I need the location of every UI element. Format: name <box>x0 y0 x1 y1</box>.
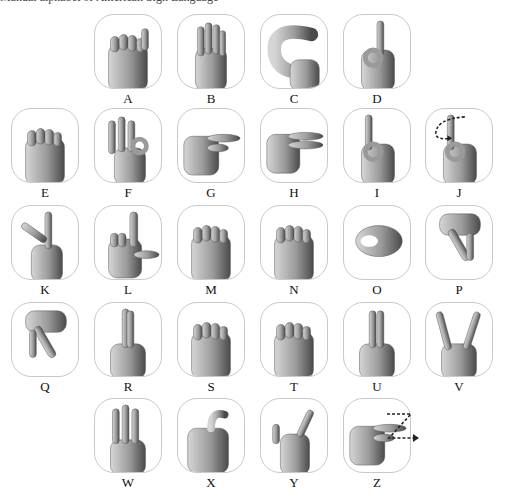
letter-label: O <box>343 283 411 297</box>
letter-label: M <box>177 283 245 297</box>
hand-crossed-up-icon <box>95 303 161 376</box>
hand-sign-image <box>425 205 493 280</box>
hand-two-up-icon <box>344 303 410 376</box>
letter-label: Q <box>11 380 79 394</box>
hand-sign-image <box>343 108 411 183</box>
hand-fist-icon <box>261 303 327 376</box>
letter-label: R <box>94 380 162 394</box>
hand-index-side-icon <box>178 109 244 182</box>
hand-sign-image <box>260 108 328 183</box>
sign-f: F <box>94 108 164 200</box>
sign-j: J <box>425 108 495 200</box>
hand-sign-image <box>11 205 79 280</box>
hand-sign-image <box>94 302 162 377</box>
sign-u: U <box>343 302 413 394</box>
hand-two-side-icon <box>261 109 327 182</box>
hand-hook-icon <box>178 399 244 472</box>
hand-sign-image <box>94 398 162 473</box>
letter-label: Y <box>260 476 328 490</box>
letter-label: D <box>343 92 411 106</box>
letter-label: I <box>343 186 411 200</box>
hand-p-down-icon <box>426 206 492 279</box>
sign-w: W <box>94 398 164 490</box>
sign-t: T <box>260 302 330 394</box>
hand-sign-image <box>260 398 328 473</box>
letter-label: N <box>260 283 328 297</box>
letter-label: L <box>94 283 162 297</box>
hand-v-up-icon <box>426 303 492 376</box>
hand-curled-fingers-icon <box>12 109 78 182</box>
sign-z: Z <box>343 398 413 490</box>
sign-r: R <box>94 302 164 394</box>
z-motion-arrow-icon <box>383 404 419 444</box>
hand-sign-image <box>11 302 79 377</box>
letter-label: U <box>343 380 411 394</box>
letter-label: C <box>260 92 328 106</box>
letter-label: P <box>425 283 493 297</box>
sign-g: G <box>177 108 247 200</box>
letter-label: T <box>260 380 328 394</box>
page-caption: Manual alphabet of American Sign Languag… <box>0 0 218 5</box>
letter-label: Z <box>343 476 411 490</box>
letter-label: G <box>177 186 245 200</box>
hand-sign-image <box>425 108 493 183</box>
hand-o-shape-icon <box>344 206 410 279</box>
sign-b: B <box>177 14 247 106</box>
hand-sign-image <box>343 205 411 280</box>
hand-sign-image <box>343 14 411 89</box>
letter-label: F <box>94 186 162 200</box>
hand-fist-icon <box>178 206 244 279</box>
sign-o: O <box>343 205 413 297</box>
sign-k: K <box>11 205 81 297</box>
letter-label: J <box>425 186 493 200</box>
sign-e: E <box>11 108 81 200</box>
hand-sign-image <box>177 14 245 89</box>
hand-index-up-circle-icon <box>344 15 410 88</box>
hand-sign-image <box>260 14 328 89</box>
hand-pinky-up-icon <box>426 109 492 182</box>
letter-label: S <box>177 380 245 394</box>
sign-h: H <box>260 108 330 200</box>
sign-l: L <box>94 205 164 297</box>
hand-c-curve-icon <box>261 15 327 88</box>
sign-p: P <box>425 205 495 297</box>
hand-fist-icon <box>261 206 327 279</box>
letter-label: W <box>94 476 162 490</box>
hand-fist-thumb-side-icon <box>95 15 161 88</box>
hand-sign-image <box>425 302 493 377</box>
letter-label: K <box>11 283 79 297</box>
sign-c: C <box>260 14 330 106</box>
hand-sign-image <box>177 205 245 280</box>
hand-sign-image <box>94 14 162 89</box>
hand-q-down-icon <box>12 303 78 376</box>
hand-sign-image <box>177 398 245 473</box>
sign-i: I <box>343 108 413 200</box>
letter-label: X <box>177 476 245 490</box>
letter-label: V <box>425 380 493 394</box>
hand-y-shape-icon <box>261 399 327 472</box>
sign-a: A <box>94 14 164 106</box>
sign-q: Q <box>11 302 81 394</box>
hand-pinky-up-icon <box>344 109 410 182</box>
hand-sign-image <box>94 205 162 280</box>
letter-label: A <box>94 92 162 106</box>
sign-n: N <box>260 205 330 297</box>
hand-sign-image <box>94 108 162 183</box>
hand-sign-image <box>177 302 245 377</box>
sign-v: V <box>425 302 495 394</box>
hand-fist-icon <box>178 303 244 376</box>
hand-sign-image <box>260 302 328 377</box>
hand-sign-image <box>260 205 328 280</box>
hand-flat-palm-icon <box>178 15 244 88</box>
hand-l-shape-icon <box>95 206 161 279</box>
hand-three-up-ok-icon <box>95 109 161 182</box>
letter-label: E <box>11 186 79 200</box>
sign-y: Y <box>260 398 330 490</box>
letter-label: B <box>177 92 245 106</box>
sign-m: M <box>177 205 247 297</box>
sign-d: D <box>343 14 413 106</box>
hand-k-shape-icon <box>12 206 78 279</box>
hand-three-up-icon <box>95 399 161 472</box>
hand-sign-image <box>343 302 411 377</box>
hand-sign-image <box>177 108 245 183</box>
